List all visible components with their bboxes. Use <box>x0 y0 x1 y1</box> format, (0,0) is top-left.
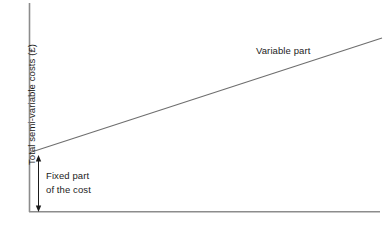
total-cost-line <box>30 38 382 153</box>
variable-part-annotation: Variable part <box>256 44 310 57</box>
y-axis-label: Total semi-variable costs (£) <box>25 25 38 185</box>
fixed-part-annotation: Fixed partof the cost <box>46 169 91 196</box>
semi-variable-cost-chart: Total semi-variable costs (£) Variable p… <box>0 0 387 230</box>
fixed-part-annotation-line1: Fixed part <box>46 170 89 181</box>
fixed-part-annotation-line2: of the cost <box>46 183 91 197</box>
